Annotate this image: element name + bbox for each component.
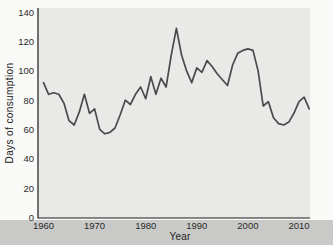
x-tick-label: 1980 <box>135 220 156 231</box>
x-tick-label: 1970 <box>84 220 105 231</box>
y-tick-label: 80 <box>23 95 34 106</box>
chart-figure: 0204060801001201401960197019801990200020… <box>0 0 333 245</box>
y-tick-label: 100 <box>18 65 34 76</box>
x-axis-title: Year <box>169 231 190 242</box>
y-tick-label: 60 <box>23 124 34 135</box>
x-tick-label: 1960 <box>33 220 54 231</box>
y-tick-label: 140 <box>18 7 34 18</box>
x-tick-label: 1990 <box>186 220 207 231</box>
x-tick-label: 2010 <box>288 220 309 231</box>
x-tick-label: 2000 <box>237 220 258 231</box>
y-tick-label: 20 <box>23 183 34 194</box>
line-chart: 0204060801001201401960197019801990200020… <box>0 0 333 245</box>
y-axis-title: Days of consumption <box>4 63 15 164</box>
y-tick-label: 120 <box>18 36 34 47</box>
y-tick-label: 40 <box>23 153 34 164</box>
